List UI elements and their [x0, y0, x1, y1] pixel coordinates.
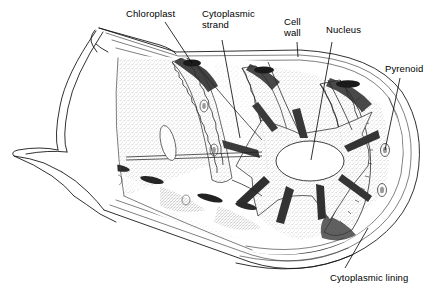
cell-body — [13, 28, 420, 269]
label-cell-wall-line2: wall — [283, 27, 301, 38]
label-cytoplasmic-strand-line2: strand — [202, 19, 229, 30]
spirogyra-cell-diagram: Chloroplast Cytoplasmic strand Cell wall… — [0, 0, 437, 292]
label-pyrenoid: Pyrenoid — [385, 63, 423, 74]
label-cytoplasmic-lining: Cytoplasmic lining — [330, 272, 408, 283]
label-cell-wall-line1: Cell — [284, 16, 301, 27]
nucleus — [276, 141, 344, 181]
label-chloroplast: Chloroplast — [126, 8, 175, 19]
label-cytoplasmic-strand-line1: Cytoplasmic — [202, 8, 255, 19]
label-nucleus: Nucleus — [326, 24, 361, 35]
